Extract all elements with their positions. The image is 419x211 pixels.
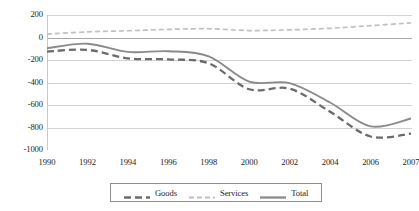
legend-swatch-goods-icon (124, 188, 150, 197)
x-tick-label: 2002 (281, 157, 298, 167)
x-tick-label: 2004 (322, 157, 339, 167)
y-tick-label: 0 (0, 33, 43, 42)
y-tick-label: -600 (0, 100, 43, 109)
legend-swatch-total-icon (260, 188, 286, 197)
y-tick-label: 200 (0, 10, 43, 19)
plot-area (47, 15, 412, 150)
x-tick-label: 1992 (79, 157, 96, 167)
plot-svg (47, 15, 412, 150)
y-tick-label: -200 (0, 55, 43, 64)
legend-entry-goods[interactable]: Goods (124, 188, 177, 198)
legend-swatch-services-icon (189, 188, 215, 197)
x-tick-label: 1996 (160, 157, 177, 167)
x-tick-label: 1998 (200, 157, 217, 167)
chart-legend: GoodsServicesTotal (110, 183, 322, 202)
legend-label: Total (291, 188, 308, 198)
legend-label: Goods (155, 188, 177, 198)
x-tick-label: 1994 (119, 157, 136, 167)
x-tick-label: 2006 (362, 157, 379, 167)
y-tick-label: -1000 (0, 145, 43, 154)
x-tick-label: 1990 (39, 157, 56, 167)
legend-label: Services (220, 188, 248, 198)
series-line-goods (47, 50, 411, 138)
legend-entry-total[interactable]: Total (260, 188, 308, 198)
series-line-total (47, 44, 411, 127)
y-axis: 2000-200-400-600-800-1000 (0, 0, 43, 211)
y-tick-label: -400 (0, 78, 43, 87)
x-tick-label: 2000 (241, 157, 258, 167)
series-line-services (47, 23, 411, 34)
legend-entry-services[interactable]: Services (189, 188, 248, 198)
y-tick-label: -800 (0, 123, 43, 132)
series-lines (47, 23, 411, 138)
x-tick-label: 2007 (403, 157, 419, 167)
line-chart-figure: 2000-200-400-600-800-1000 19901992199419… (0, 0, 419, 211)
x-axis: 1990199219941996199820002002200420062007 (47, 157, 412, 171)
